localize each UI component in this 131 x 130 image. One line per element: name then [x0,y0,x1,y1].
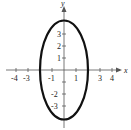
x-axis-label: x [123,66,128,75]
svg-text:2: 2 [57,42,61,51]
svg-text:-4: -4 [11,74,18,83]
svg-text:3: 3 [98,74,102,83]
svg-text:-3: -3 [51,102,58,111]
svg-text:-3: -3 [23,74,30,83]
ellipse-plot: x y -4 -3 -1 1 3 4 -3 -2 1 2 3 [0,0,131,130]
y-tick-labels: -3 -2 1 2 3 [51,30,61,111]
svg-text:3: 3 [57,30,61,39]
svg-text:-1: -1 [48,74,55,83]
svg-text:4: 4 [110,74,114,83]
x-axis-arrow-icon [116,68,122,73]
y-axis-label: y [60,0,65,8]
svg-text:-2: -2 [51,90,58,99]
svg-text:1: 1 [74,74,78,83]
svg-text:1: 1 [57,54,61,63]
